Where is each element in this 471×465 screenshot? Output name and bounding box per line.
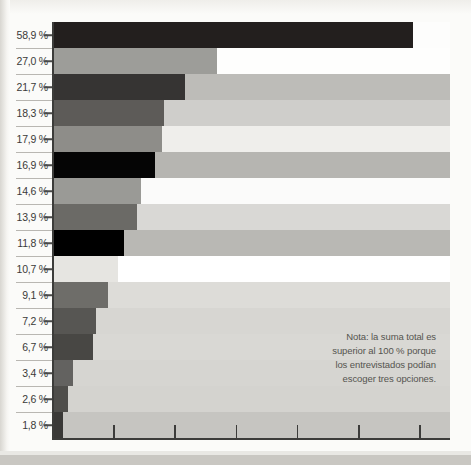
note-line-3: los entrevistados podían: [276, 358, 436, 372]
bar: [52, 22, 413, 48]
bar-chart: 58,9 %27,0 %21,7 %18,3 %17,9 %16,9 %14,6…: [14, 22, 450, 440]
chart-note: Nota: la suma total es superior al 100 %…: [276, 330, 436, 386]
bar: [52, 308, 96, 334]
label-separator: [16, 256, 52, 257]
chart-row: 10,7 %: [14, 256, 450, 282]
row-background-band: [52, 412, 450, 438]
page-bottom-band: [0, 455, 471, 465]
note-line-4: escoger tres opciones.: [276, 372, 436, 386]
bar: [52, 360, 73, 386]
bar: [52, 178, 141, 204]
row-background-band: [52, 282, 450, 308]
bar: [52, 230, 124, 256]
x-axis-tick: [113, 425, 115, 438]
label-separator: [16, 360, 52, 361]
note-line-1: Nota: la suma total es: [276, 330, 436, 344]
bar: [52, 126, 162, 152]
label-separator: [16, 412, 52, 413]
chart-row: 11,8 %: [14, 230, 450, 256]
chart-row: 1,8 %: [14, 412, 450, 438]
chart-row: 27,0 %: [14, 48, 450, 74]
label-separator: [16, 334, 52, 335]
y-axis-line: [52, 22, 54, 440]
bar: [52, 386, 68, 412]
page-left-shadow: [0, 0, 10, 465]
x-axis-line: [52, 438, 450, 440]
figure-root: 58,9 %27,0 %21,7 %18,3 %17,9 %16,9 %14,6…: [0, 0, 471, 465]
x-axis-tick: [236, 425, 238, 438]
label-separator: [16, 204, 52, 205]
note-line-2: superior al 100 % porque: [276, 344, 436, 358]
x-axis-tick: [419, 425, 421, 438]
x-axis-tick: [358, 425, 360, 438]
chart-row: 18,3 %: [14, 100, 450, 126]
label-separator: [16, 178, 52, 179]
bar: [52, 204, 137, 230]
bar: [52, 74, 185, 100]
label-separator: [16, 282, 52, 283]
label-separator: [16, 74, 52, 75]
label-separator: [16, 230, 52, 231]
bar: [52, 152, 155, 178]
bar: [52, 256, 118, 282]
label-separator: [16, 126, 52, 127]
bar: [52, 334, 93, 360]
x-axis-tick: [297, 425, 299, 438]
chart-row: 21,7 %: [14, 74, 450, 100]
label-separator: [16, 48, 52, 49]
chart-row: 14,6 %: [14, 178, 450, 204]
chart-row: 17,9 %: [14, 126, 450, 152]
bar: [52, 48, 217, 74]
bar: [52, 282, 108, 308]
label-separator: [16, 100, 52, 101]
label-separator: [16, 308, 52, 309]
row-background-band: [52, 386, 450, 412]
label-separator: [16, 386, 52, 387]
x-axis-tick: [174, 425, 176, 438]
chart-row: 58,9 %: [14, 22, 450, 48]
chart-row: 9,1 %: [14, 282, 450, 308]
bar: [52, 100, 164, 126]
label-separator: [16, 152, 52, 153]
chart-row: 2,6 %: [14, 386, 450, 412]
page-top-shadow: [0, 0, 471, 14]
chart-row: 16,9 %: [14, 152, 450, 178]
chart-row: 13,9 %: [14, 204, 450, 230]
